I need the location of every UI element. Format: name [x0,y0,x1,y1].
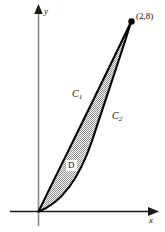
x-axis-label: x [149,216,153,225]
figure-canvas: y x C1 C2 D (2,8) [0,0,165,232]
curve-c2-label: C2 [112,111,122,123]
region-d-label: D [66,160,77,171]
curve-c2-letter: C [112,110,119,121]
y-axis-arrowhead [34,4,43,14]
curve-c2-subscript: 2 [119,115,123,123]
endpoint-dot-2-8 [128,18,134,24]
curve-c1-label: C1 [72,89,82,101]
curve-c1-subscript: 1 [79,93,83,101]
y-axis-label: y [44,7,48,16]
curve-c1-letter: C [72,88,79,99]
figure-svg [0,0,165,232]
point-coordinate-label: (2,8) [136,12,153,21]
